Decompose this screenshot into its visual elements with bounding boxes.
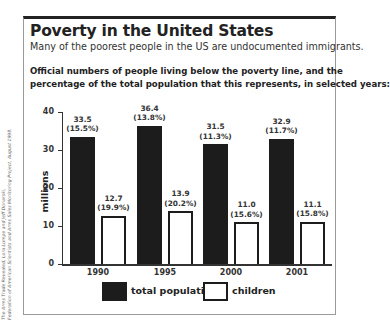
chart-intro: Official numbers of people living below … xyxy=(30,65,390,90)
y-tick xyxy=(58,150,62,151)
source-line-2: Federation of American Scientists and Ar… xyxy=(7,128,13,320)
bar-children-2001 xyxy=(300,222,325,264)
bar-value-label: 31.5(11.3%) xyxy=(196,122,236,141)
bar-percent: (11.7%) xyxy=(262,126,302,136)
bar-value: 13.9 xyxy=(161,189,201,199)
bar-percent: (19.9%) xyxy=(94,203,134,213)
bar-value: 12.7 xyxy=(94,194,134,204)
bar-value-label: 32.9(11.7%) xyxy=(262,117,302,136)
bar-percent: (13.8%) xyxy=(130,113,170,123)
bar-percent: (11.3%) xyxy=(196,132,236,142)
chart-title: Poverty in the United States xyxy=(30,22,273,40)
bar-children-1995 xyxy=(168,211,193,264)
bar-value: 33.5 xyxy=(63,115,103,125)
y-tick-label: 30 xyxy=(40,145,54,154)
bar-value-label: 11.0(15.6%) xyxy=(227,200,267,219)
bar-value-label: 12.7(19.9%) xyxy=(94,194,134,213)
y-tick xyxy=(58,188,62,189)
legend-label-children: children xyxy=(232,285,276,296)
y-tick-label: 20 xyxy=(40,183,54,192)
chart-subtitle: Many of the poorest people in the US are… xyxy=(30,41,364,52)
bar-value: 32.9 xyxy=(262,117,302,127)
legend-swatch-children xyxy=(203,282,228,301)
x-category-label: 2000 xyxy=(211,268,251,277)
source-credit: The Arms Trade Revealed, Lora Lumpe and … xyxy=(1,128,13,320)
bar-total-2001 xyxy=(269,139,294,264)
bar-value-label: 11.1(15.8%) xyxy=(293,200,333,219)
x-axis-line xyxy=(62,264,332,266)
legend-swatch-total xyxy=(102,282,127,301)
bar-value: 11.1 xyxy=(293,200,333,210)
y-tick-label: 0 xyxy=(40,259,54,268)
bar-value-label: 36.4(13.8%) xyxy=(130,104,170,123)
bar-value: 11.0 xyxy=(227,200,267,210)
bar-percent: (20.2%) xyxy=(161,199,201,209)
y-tick xyxy=(58,264,62,265)
x-category-label: 2001 xyxy=(277,268,317,277)
y-tick-label: 40 xyxy=(40,107,54,116)
bar-children-1990 xyxy=(101,216,126,264)
bar-value-label: 33.5(15.5%) xyxy=(63,115,103,134)
y-tick xyxy=(58,226,62,227)
bar-total-1995 xyxy=(137,126,162,264)
bar-value-label: 13.9(20.2%) xyxy=(161,189,201,208)
bar-percent: (15.5%) xyxy=(63,124,103,134)
y-tick xyxy=(58,112,62,113)
y-axis-line xyxy=(62,112,63,265)
x-category-label: 1995 xyxy=(145,268,185,277)
y-tick-label: 10 xyxy=(40,221,54,230)
bar-value: 31.5 xyxy=(196,122,236,132)
intro-line-2: percentage of the total population that … xyxy=(30,78,390,91)
bar-total-1990 xyxy=(70,137,95,264)
bar-total-2000 xyxy=(203,144,228,264)
intro-line-1: Official numbers of people living below … xyxy=(30,65,390,78)
bar-percent: (15.6%) xyxy=(227,210,267,220)
x-category-label: 1990 xyxy=(78,268,118,277)
bar-percent: (15.8%) xyxy=(293,209,333,219)
bar-children-2000 xyxy=(234,222,259,264)
bar-value: 36.4 xyxy=(130,104,170,114)
